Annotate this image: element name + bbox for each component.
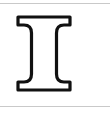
bottom-divider-rule (0, 106, 110, 107)
glyph-stage (0, 4, 110, 106)
glyph-canvas (0, 0, 110, 113)
letter-i-outline-path (18, 17, 70, 90)
letter-i-glyph (0, 4, 110, 106)
